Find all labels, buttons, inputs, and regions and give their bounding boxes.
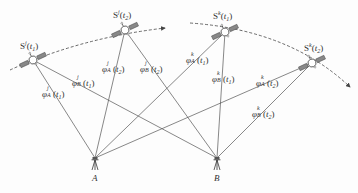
- satellite-label-Sk_t2: Sk(t2): [304, 42, 323, 54]
- observation-line: [33, 60, 217, 158]
- observation-label: φkA(t1): [186, 54, 209, 66]
- station-A-tripod-icon: [92, 157, 99, 170]
- observation-label: φkA(t2): [256, 77, 279, 89]
- satellite-label-Sj_t2: Sj(t2): [113, 9, 131, 21]
- station-label-A: A: [92, 173, 98, 183]
- observation-label: φkB(t1): [212, 73, 235, 85]
- diagram-canvas: Sj(t1)Sj(t2)Sk(t1)Sk(t2)φjA(t1)φjB(t1)φj…: [0, 0, 358, 193]
- satellite-label-Sj_t1: Sj(t1): [20, 40, 38, 52]
- observation-label: φjA(t2): [102, 63, 125, 75]
- station-label-B: B: [214, 173, 220, 183]
- station-B-tripod-icon: [214, 157, 221, 170]
- observation-label: φkB(t2): [252, 108, 275, 120]
- observation-label: φjA(t1): [42, 88, 65, 100]
- satellite-label-Sk_t1: Sk(t1): [213, 10, 232, 22]
- observation-line: [217, 32, 225, 158]
- observation-label: φjB(t2): [140, 63, 163, 75]
- observation-line: [95, 32, 225, 158]
- observation-line: [95, 30, 125, 158]
- observation-label: φjB(t1): [72, 77, 95, 89]
- observation-line: [33, 60, 95, 158]
